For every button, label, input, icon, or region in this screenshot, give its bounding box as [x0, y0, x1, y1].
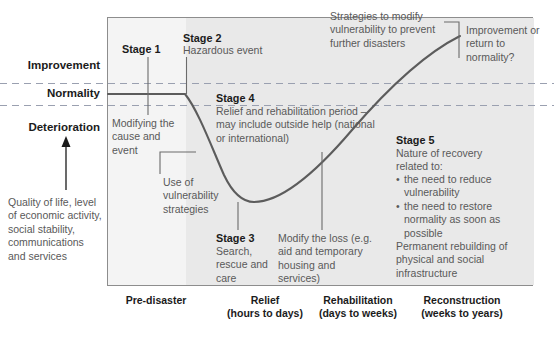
quality-of-life-caption: Quality of life, level of economic activ…	[8, 196, 102, 263]
stage-3-heading: Stage 3	[216, 232, 272, 245]
stage-5-permanent-rebuilding: Permanent rebuilding of physical and soc…	[396, 240, 514, 280]
xaxis-category-sub: (days to weeks)	[306, 307, 410, 320]
note-use-of-vulnerability-strategies: Use of vulnerability strategies	[163, 176, 225, 216]
diagram-canvas: Improvement Normality Deterioration Qual…	[0, 0, 554, 355]
stage-5-bullet-list: the need to reduce vulnerability the nee…	[396, 173, 512, 240]
axis-label-normality: Normality	[4, 87, 100, 99]
xaxis-category-relief: Relief (hours to days)	[213, 294, 317, 320]
stage-4-heading: Stage 4	[216, 92, 286, 105]
stage-3-note: Search, rescue and care	[216, 245, 272, 285]
improvement-arrow	[62, 136, 71, 190]
xaxis-category-sub: (weeks to years)	[406, 307, 518, 320]
xaxis-category-rehabilitation: Rehabilitation (days to weeks)	[306, 294, 410, 320]
xaxis-category-sub: (hours to days)	[213, 307, 317, 320]
xaxis-category-reconstruction: Reconstruction (weeks to years)	[406, 294, 518, 320]
xaxis-category-name: Relief	[213, 294, 317, 307]
stage-5-note: Nature of recovery related to:	[396, 147, 510, 174]
stage-4-note: Relief and rehabilitation period – may i…	[216, 105, 386, 145]
stage-1-heading: Stage 1	[122, 43, 186, 56]
xaxis-category-name: Reconstruction	[406, 294, 518, 307]
note-modify-the-loss: Modify the loss (e.g. aid and temporary …	[278, 232, 378, 286]
xaxis-category-name: Pre-disaster	[110, 294, 202, 307]
xaxis-category-pre-disaster: Pre-disaster	[110, 294, 202, 307]
note-strategies-to-modify-vulnerability: Strategies to modify vulnerability to pr…	[330, 10, 450, 50]
xaxis-category-name: Rehabilitation	[306, 294, 410, 307]
axis-label-deterioration: Deterioration	[4, 121, 100, 133]
note-improvement-or-return-to-normality: Improvement or return to normality?	[466, 24, 546, 64]
stage-5-bullet: the need to reduce vulnerability	[396, 173, 512, 200]
stage-5-bullet: the need to restore normality as soon as…	[396, 200, 512, 240]
axis-label-improvement: Improvement	[4, 59, 100, 71]
stage-5-heading: Stage 5	[396, 134, 468, 147]
stage-2-note: Hazardous event	[183, 44, 279, 57]
stage-1-note: Modifying the cause and event	[112, 117, 184, 157]
